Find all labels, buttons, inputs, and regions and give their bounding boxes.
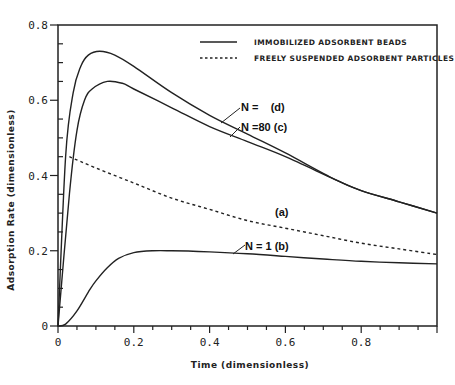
x-tick-label: 0.4 <box>200 336 220 349</box>
x-tick-label: 0.8 <box>351 336 371 349</box>
y-tick-label: 0.6 <box>28 94 48 107</box>
x-axis-ticks: 00.20.40.60.8 <box>55 326 437 349</box>
legend-dashed-label: FREELY SUSPENDED ADSORBENT PARTICLES <box>254 54 454 63</box>
series-line <box>58 51 437 326</box>
chart: 00.20.40.60.8 00.20.40.60.8 Adsorption R… <box>0 0 455 385</box>
annotation-d: N = (d) <box>241 101 285 113</box>
x-tick-label: 0.2 <box>124 336 144 349</box>
y-tick-label: 0.2 <box>28 245 48 258</box>
leader-d <box>221 108 240 123</box>
x-tick-label: 0.6 <box>275 336 295 349</box>
x-tick-label: 0 <box>55 336 62 349</box>
annotation-c: N =80 (c) <box>241 121 287 133</box>
legend: IMMOBILIZED ADSORBENT BEADS FREELY SUSPE… <box>200 38 454 63</box>
annotation-a: (a) <box>275 206 289 218</box>
series-line <box>58 251 437 326</box>
x-axis-title: Time (dimensionless) <box>191 360 309 370</box>
y-tick-label: 0.8 <box>28 19 48 32</box>
series-line <box>58 81 437 326</box>
legend-solid-label: IMMOBILIZED ADSORBENT BEADS <box>254 38 407 47</box>
annotation-b: N = 1 (b) <box>245 240 289 252</box>
y-tick-label: 0 <box>41 320 48 333</box>
y-tick-label: 0.4 <box>28 170 48 183</box>
y-axis-title: Adsorption Rate (dimensionless) <box>6 109 16 291</box>
series-lines <box>58 51 437 326</box>
